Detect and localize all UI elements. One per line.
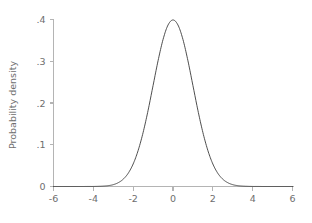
chart-canvas: 0.1.2.3.4 -6-4-20246 Probability density [0,0,312,223]
y-tick-label: .2 [36,98,45,109]
y-axis-title: Probability density [7,61,18,149]
x-tick-label: 0 [170,193,176,204]
y-tick-label: .3 [36,56,45,67]
x-tick-label: -4 [89,193,98,204]
probability-density-plot: 0.1.2.3.4 -6-4-20246 Probability density [0,0,312,223]
y-tick-label: .4 [36,14,45,25]
x-tick-label: 6 [289,193,295,204]
x-tick-label: 2 [210,193,216,204]
y-tick-label: 0 [39,181,45,192]
plot-background [0,0,312,223]
y-tick-label: .1 [36,139,45,150]
x-tick-label: -2 [128,193,137,204]
x-tick-label: -6 [49,193,58,204]
x-tick-label: 4 [250,193,256,204]
y-axis-title-group: Probability density [7,61,18,149]
